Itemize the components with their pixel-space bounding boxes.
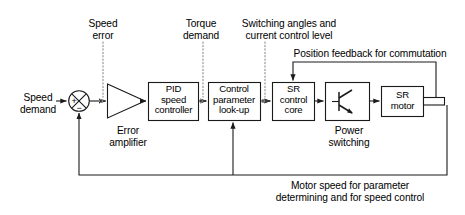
label-power-switching: Power switching <box>318 125 380 148</box>
label-error-amplifier: Error amplifier <box>98 125 158 148</box>
block-label-control-parameter-lookup: Control parameter look-up <box>207 84 261 116</box>
block-label-sr-control-core: SR control core <box>272 84 315 116</box>
label-motor-speed-feedback: Motor speed for parameter determining an… <box>250 180 450 203</box>
label-torque-demand: Torque demand <box>170 18 232 41</box>
block-label-sr-motor: SR motor <box>381 90 424 111</box>
label-switching-angles-and-current-control-level: Switching angles and current control lev… <box>228 18 350 41</box>
label-speed-demand: Speed demand <box>12 92 64 115</box>
summing-junction-minus-sign: − <box>77 104 82 113</box>
label-position-feedback-for-commutation: Position feedback for commutation <box>284 48 456 60</box>
block-label-pid-speed-controller: PID speed controller <box>148 84 199 116</box>
block-diagram-canvas: PID speed controller Control parameter l… <box>0 0 465 215</box>
motor-shaft <box>424 98 445 106</box>
error-amplifier-triangle <box>108 84 146 118</box>
label-speed-error: Speed error <box>72 18 134 41</box>
